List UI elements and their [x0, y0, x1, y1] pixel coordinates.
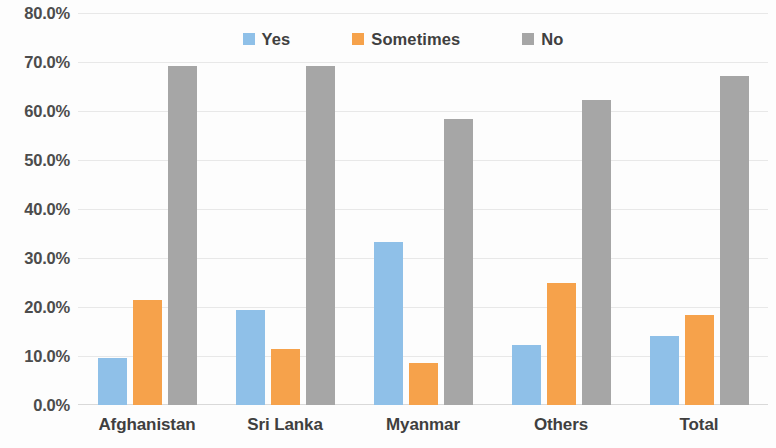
bar[interactable] [133, 300, 162, 405]
y-axis-tick-label: 70.0% [0, 53, 70, 72]
x-axis-tick-label: Afghanistan [78, 410, 216, 448]
bar-chart: YesSometimesNo 80.0%70.0%60.0%50.0%40.0%… [0, 0, 776, 448]
bar[interactable] [547, 283, 576, 405]
bar-group [630, 13, 768, 405]
bar-group [78, 13, 216, 405]
bar[interactable] [409, 363, 438, 405]
bar-groups [78, 13, 768, 405]
x-axis-tick-label: Others [492, 410, 630, 448]
bar[interactable] [236, 310, 265, 405]
bar[interactable] [306, 66, 335, 405]
y-axis-tick-label: 30.0% [0, 249, 70, 268]
bar-group [492, 13, 630, 405]
y-axis-tick-label: 10.0% [0, 347, 70, 366]
plot-area [78, 13, 768, 405]
bar[interactable] [650, 336, 679, 405]
x-axis-tick-label: Total [630, 410, 768, 448]
bar[interactable] [685, 315, 714, 405]
y-axis-tick-label: 40.0% [0, 200, 70, 219]
bar[interactable] [444, 119, 473, 405]
x-axis-tick-label: Sri Lanka [216, 410, 354, 448]
y-axis-tick-label: 0.0% [0, 396, 70, 415]
y-axis: 80.0%70.0%60.0%50.0%40.0%30.0%20.0%10.0%… [0, 0, 70, 448]
x-axis-tick-label: Myanmar [354, 410, 492, 448]
x-axis: AfghanistanSri LankaMyanmarOthersTotal [78, 410, 768, 448]
y-axis-tick-label: 60.0% [0, 102, 70, 121]
bar[interactable] [582, 100, 611, 405]
bar-group [216, 13, 354, 405]
bar[interactable] [98, 358, 127, 405]
bar[interactable] [168, 66, 197, 405]
bar[interactable] [271, 349, 300, 405]
y-axis-tick-label: 50.0% [0, 151, 70, 170]
y-axis-tick-label: 20.0% [0, 298, 70, 317]
bar[interactable] [512, 345, 541, 405]
bar[interactable] [374, 242, 403, 405]
y-axis-tick-label: 80.0% [0, 4, 70, 23]
bar[interactable] [720, 76, 749, 405]
bar-group [354, 13, 492, 405]
